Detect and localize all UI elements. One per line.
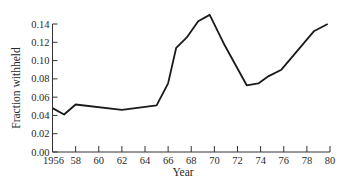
- data-line: [53, 15, 328, 115]
- x-axis: 1956586062646668707274767880: [43, 146, 335, 166]
- line-chart: 0.000.020.040.060.080.100.120.14 1956586…: [0, 0, 351, 183]
- x-tick-label: 60: [94, 155, 105, 166]
- y-tick-label: 0.14: [31, 19, 50, 30]
- y-tick-label: 0.08: [31, 73, 49, 84]
- x-tick-label: 66: [163, 155, 174, 166]
- x-tick-label: 80: [325, 155, 336, 166]
- y-axis: 0.000.020.040.060.080.100.120.14: [31, 19, 57, 158]
- x-tick-label: 1956: [43, 155, 64, 166]
- y-tick-label: 0.02: [31, 128, 49, 139]
- x-axis-title: Year: [172, 166, 193, 178]
- y-tick-label: 0.04: [31, 110, 50, 121]
- y-tick-label: 0.06: [31, 92, 49, 103]
- y-axis-title: Fraction withheld: [10, 47, 22, 129]
- x-tick-label: 76: [279, 155, 290, 166]
- y-tick-label: 0.12: [31, 37, 49, 48]
- x-tick-label: 74: [255, 155, 266, 166]
- x-tick-label: 62: [117, 155, 128, 166]
- x-tick-label: 78: [302, 155, 313, 166]
- x-tick-label: 58: [70, 155, 81, 166]
- x-tick-label: 72: [232, 155, 243, 166]
- x-tick-label: 64: [140, 155, 151, 166]
- chart-canvas: 0.000.020.040.060.080.100.120.14 1956586…: [0, 0, 351, 183]
- series-layer: [53, 15, 328, 115]
- x-tick-label: 70: [209, 155, 220, 166]
- y-tick-label: 0.10: [31, 55, 49, 66]
- x-tick-label: 68: [186, 155, 197, 166]
